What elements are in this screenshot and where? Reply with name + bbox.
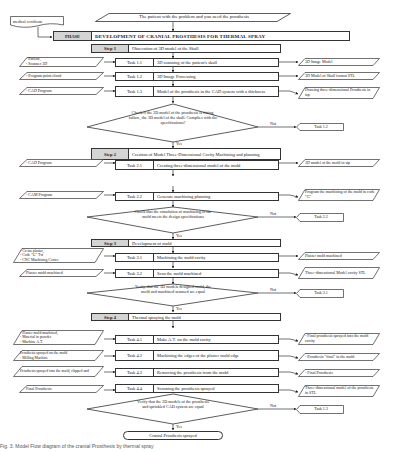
task-desc: Creating three-dimensional model of the …	[154, 161, 278, 169]
task-desc: Removing the prosthesis from the mold	[154, 369, 278, 376]
task-id: Task 3.1	[116, 254, 154, 261]
task-id: Task 4.3	[116, 369, 154, 376]
step-title: Development of mold	[129, 240, 280, 246]
task-desc: Scanning the prosthesis sprayed	[154, 385, 278, 392]
task-4-2: Task 4.2 Machining the edges of the plas…	[115, 350, 279, 361]
task-input: Prosthesis sprayed on the mold - Milling…	[13, 350, 104, 361]
task-id: Task 1.1	[116, 59, 154, 66]
task-id: Task 4.4	[116, 385, 154, 392]
goto-task: Task 1.3	[296, 405, 344, 414]
step-title: Thermal spraying the mold	[129, 314, 280, 320]
task-input: - CAD Program	[19, 87, 104, 95]
step-label: Step 2	[92, 149, 129, 159]
start-label: The patient with the problem and you nee…	[139, 15, 249, 20]
task-output: 3D Image Model	[298, 58, 380, 66]
task-input: - Patient, - Scanner 3D	[19, 57, 104, 67]
start-input: The patient with the problem and you nee…	[95, 13, 291, 22]
no-label: Not	[270, 121, 276, 126]
task-desc: 3D scanning of the patient's skull	[154, 59, 278, 66]
task-desc: Model of the prosthesis in the CAD syste…	[154, 87, 278, 96]
decision-3: Verify that the 3D models designed mold,…	[133, 285, 213, 295]
task-output: 3D model of the mold in stp	[298, 159, 380, 167]
step-title: Obsevation of 3D model of the Skull	[129, 45, 280, 52]
task-id: Task 3.2	[116, 270, 154, 277]
task-2-1: Task 2.1 Creating three-dimensional mode…	[115, 160, 279, 170]
end-label: Cranial Prosthesis sprayed	[149, 433, 197, 438]
goto-task: Task 2.2	[296, 213, 344, 222]
task-input: - CAD Program	[19, 159, 104, 167]
task-id: Task 4.1	[116, 336, 154, 343]
decision-4: Verify that the 3D models of the prosthe…	[135, 400, 211, 410]
task-3-1: Task 3.1 Machining the mold cavity	[115, 253, 279, 262]
task-4-4: Task 4.4 Scanning the prosthesis sprayed	[115, 384, 279, 393]
phase-title: DEVELOPMENT OF CRANIAL PROSTHESIS FOR TH…	[92, 32, 349, 40]
task-desc: Make A.T. on the mold cavity	[154, 336, 278, 343]
task-id: Task 1.3	[116, 87, 154, 96]
task-desc: Generate machining planning	[154, 193, 278, 200]
step-1: Step 1 Obsevation of 3D model of the Sku…	[91, 44, 281, 53]
yes-label: Yes	[176, 306, 182, 311]
task-input: - Program point cloud	[19, 72, 104, 80]
yes-label: Yes	[176, 233, 182, 238]
task-input: Prosthesis sprayed into the mold, clippe…	[13, 366, 104, 377]
step-label: Step 4	[92, 314, 129, 320]
step-label: Step 1	[92, 45, 129, 52]
decision-1: Check if the 3D model of the prosthesis …	[128, 111, 218, 125]
task-1-3: Task 1.3 Model of the prosthesis in the …	[115, 86, 279, 97]
task-output: Drawing three-dimensional Prosthesis in …	[298, 87, 380, 99]
step-3: Step 3 Development of mold	[91, 239, 281, 247]
end-terminator: Cranial Prosthesis sprayed	[123, 431, 223, 440]
task-4-1: Task 4.1 Make A.T. on the mold cavity	[115, 335, 279, 344]
no-label: Not	[270, 211, 276, 216]
task-desc: Machining the edges of the plaster mold …	[154, 351, 278, 360]
document-note: medical certificate	[10, 16, 64, 27]
phase-header: PHASE DEVELOPMENT OF CRANIAL PROSTHESIS …	[53, 31, 350, 41]
task-input: Final Prosthesis	[19, 385, 104, 393]
task-input: - Ca tus plaster, - Code "G" Txt - CNC M…	[13, 248, 104, 263]
task-desc: 3D Image Processing	[154, 73, 278, 80]
phase-label: PHASE	[54, 32, 92, 40]
goto-task: Task 1.2	[296, 123, 344, 131]
task-id: Task 2.1	[116, 161, 154, 169]
no-label: Not	[270, 287, 276, 292]
task-1-1: Task 1.1 3D scanning of the patient's sk…	[115, 58, 279, 67]
task-output: - Final Prosthesis	[298, 369, 380, 377]
task-input: - Plaster mold machined, - Material in p…	[13, 330, 104, 345]
figure-caption: Fig. 3. Model Flow diagram of the crania…	[0, 443, 153, 449]
task-desc: Machining the mold cavity	[154, 254, 278, 261]
task-desc: Scan the mold machined	[154, 270, 278, 277]
step-4: Step 4 Thermal spraying the mold	[91, 313, 281, 321]
task-id: Task 2.2	[116, 193, 154, 200]
step-2: Step 2 Creation of Model Three-Dimension…	[91, 148, 281, 160]
step-label: Step 3	[92, 240, 129, 246]
task-id: Task 4.2	[116, 351, 154, 360]
decision-2: Check that the simulation of machining o…	[130, 210, 216, 220]
task-input: Plaster mold machined	[19, 269, 104, 277]
task-output: Plaster mold machined	[298, 252, 380, 260]
goto-task: Task 3.1	[296, 289, 344, 298]
task-1-2: Task 1.2 3D Image Processing	[115, 72, 279, 81]
task-output: Three-dimensional model of the prosthesi…	[298, 385, 380, 397]
task-2-2: Task 2.2 Generate machining planning	[115, 192, 279, 201]
task-output: - Prosthesis "final" in the mold	[298, 353, 380, 361]
yes-label: Yes	[176, 141, 182, 146]
step-title: Creation of Model Three-Dimensional Cavi…	[129, 149, 280, 159]
task-output: 3D Model of Skull format STL	[298, 72, 380, 80]
task-input: - CAM Program	[19, 191, 104, 199]
task-output: Program the machining of the mold in cod…	[298, 189, 380, 201]
task-4-3: Task 4.3 Removing the prosthesis from th…	[115, 368, 279, 377]
task-id: Task 1.2	[116, 73, 154, 80]
task-output: Three-dimensional Model cavity STL	[298, 267, 380, 279]
task-3-2: Task 3.2 Scan the mold machined	[115, 269, 279, 278]
no-label: Not	[270, 403, 276, 408]
task-output: - Final prosthesis sprayed into the mold…	[298, 333, 380, 345]
yes-label: Yes	[176, 424, 182, 429]
note-label: medical certificate	[13, 19, 43, 24]
